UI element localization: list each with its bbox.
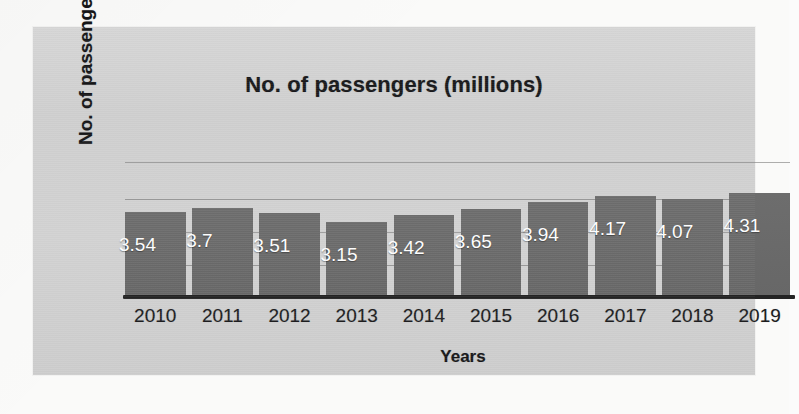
bar[interactable]: 3.7 — [192, 208, 253, 297]
bar-value-label: 3.42 — [388, 237, 425, 259]
x-tick-label: 2011 — [192, 305, 253, 327]
bar[interactable]: 3.65 — [461, 209, 522, 297]
bar-series: 3.543.73.513.153.423.653.944.174.074.31 — [125, 127, 790, 297]
bar-slot: 3.7 — [192, 127, 253, 297]
bar-value-label: 4.17 — [589, 218, 626, 240]
x-tick-label: 2013 — [326, 305, 387, 327]
x-axis-title: Years — [123, 347, 799, 367]
bar-slot: 3.54 — [125, 127, 186, 297]
x-tick-label: 2018 — [662, 305, 723, 327]
bar[interactable]: 3.42 — [394, 215, 455, 297]
bar[interactable]: 3.54 — [125, 212, 186, 297]
y-axis-title: No. of passengers — [75, 0, 97, 145]
bar-slot: 4.17 — [595, 127, 656, 297]
bar[interactable]: 3.94 — [528, 202, 589, 297]
bar[interactable]: 3.51 — [259, 213, 320, 297]
bar-slot: 3.15 — [326, 127, 387, 297]
bar-value-label: 3.51 — [253, 235, 290, 257]
x-tick-label: 2016 — [528, 305, 589, 327]
x-tick-label: 2015 — [461, 305, 522, 327]
bar-value-label: 3.15 — [320, 244, 357, 266]
chart-panel: No. of passengers (millions) No. of pass… — [33, 27, 755, 375]
bar[interactable]: 3.15 — [326, 222, 387, 297]
x-axis-line — [123, 295, 795, 299]
bar-slot: 3.65 — [461, 127, 522, 297]
bar[interactable]: 4.07 — [662, 199, 723, 297]
bar[interactable]: 4.17 — [595, 196, 656, 297]
bar-value-label: 3.7 — [186, 230, 212, 252]
bar-slot: 3.94 — [528, 127, 589, 297]
x-tick-label: 2014 — [394, 305, 455, 327]
bar-slot: 3.51 — [259, 127, 320, 297]
bar[interactable]: 4.31 — [729, 193, 790, 297]
bar-value-label: 3.94 — [522, 224, 559, 246]
chart-title: No. of passengers (millions) — [33, 72, 755, 98]
x-tick-label: 2019 — [729, 305, 790, 327]
bar-slot: 4.31 — [729, 127, 790, 297]
bar-value-label: 3.54 — [119, 234, 156, 256]
bar-slot: 3.42 — [394, 127, 455, 297]
bar-value-label: 3.65 — [455, 231, 492, 253]
x-axis-tick-labels: 2010201120122013201420152016201720182019 — [125, 305, 790, 327]
x-tick-label: 2010 — [125, 305, 186, 327]
y-axis-title-text: No. of passengers — [75, 0, 97, 145]
bar-value-label: 4.31 — [723, 215, 760, 237]
x-tick-label: 2012 — [259, 305, 320, 327]
bar-value-label: 4.07 — [656, 221, 693, 243]
bar-slot: 4.07 — [662, 127, 723, 297]
x-tick-label: 2017 — [595, 305, 656, 327]
